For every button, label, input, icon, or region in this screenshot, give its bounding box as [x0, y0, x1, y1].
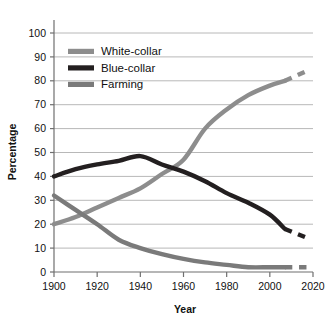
y-tick-label: 20 [34, 218, 46, 230]
legend-label: White-collar [101, 45, 162, 57]
x-tick-label: 1940 [129, 280, 153, 292]
y-tick-label: 0 [40, 266, 46, 278]
chart-background [0, 0, 332, 327]
chart-container: 0102030405060708090100 19001920194019601… [0, 0, 332, 327]
employment-trends-line-chart: 0102030405060708090100 19001920194019601… [0, 0, 332, 327]
y-tick-label: 10 [34, 242, 46, 254]
x-tick-label: 1920 [85, 280, 109, 292]
y-tick-label: 100 [28, 27, 46, 39]
x-tick-label: 2000 [258, 280, 282, 292]
x-axis-title: Year [174, 303, 196, 315]
y-tick-label: 30 [34, 194, 46, 206]
legend-swatch [68, 49, 94, 54]
y-tick-label: 90 [34, 51, 46, 63]
x-tick-label: 1960 [172, 280, 196, 292]
x-tick-label: 1900 [42, 280, 66, 292]
x-tick-label: 2020 [301, 280, 325, 292]
legend-label: Blue-collar [101, 62, 155, 74]
y-tick-label: 80 [34, 74, 46, 86]
y-tick-label: 70 [34, 98, 46, 110]
legend-label: Farming [101, 78, 143, 90]
y-tick-label: 60 [34, 122, 46, 134]
x-tick-label: 1980 [215, 280, 239, 292]
y-tick-label: 50 [34, 146, 46, 158]
legend-swatch [68, 65, 94, 70]
y-tick-label: 40 [34, 170, 46, 182]
legend-swatch [68, 82, 94, 87]
y-axis-title: Percentage [6, 124, 18, 181]
